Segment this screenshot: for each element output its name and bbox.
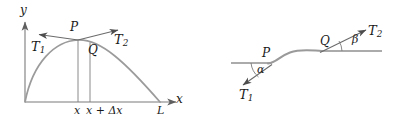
tension-label-t1: T1 <box>31 40 45 55</box>
x-plus-delta-x-tick-label: x + Δx <box>86 105 123 116</box>
point-label-p: P <box>70 21 78 33</box>
angle-label-beta: β <box>352 34 358 45</box>
tension-label-t2-subscript: 2 <box>377 29 383 39</box>
figure-vector-graphics <box>0 0 398 124</box>
angle-label-alpha: α <box>257 64 264 75</box>
point-label-q: Q <box>320 35 330 47</box>
tension-label-t1-subscript: 1 <box>40 45 46 55</box>
tension-label-t2-base: T <box>368 23 377 38</box>
tension-label-t1-subscript: 1 <box>248 93 254 103</box>
point-label-p: P <box>262 47 270 59</box>
tension-label-t1-base: T <box>239 87 248 102</box>
tension-label-t2: T2 <box>114 33 128 48</box>
x-axis-label: x <box>176 93 183 105</box>
tension-label-t2-subscript: 2 <box>123 38 129 48</box>
tension-vector-t2-arrow <box>78 30 118 40</box>
point-label-q: Q <box>88 44 98 56</box>
string-segment-curve <box>268 50 322 63</box>
tension-label-t2: T2 <box>368 24 382 39</box>
left-panel-group <box>25 22 176 102</box>
right-panel-group <box>231 30 382 85</box>
tension-label-t1: T1 <box>239 88 253 103</box>
figure-canvas: y x P Q T1 T2 x x + Δx L P Q T1 T2 α β <box>0 0 398 124</box>
tension-label-t2-base: T <box>114 32 123 47</box>
length-label-l: L <box>157 105 164 116</box>
tension-label-t1-base: T <box>31 39 40 54</box>
x-tick-label: x <box>74 105 80 116</box>
y-axis-label: y <box>20 4 27 16</box>
